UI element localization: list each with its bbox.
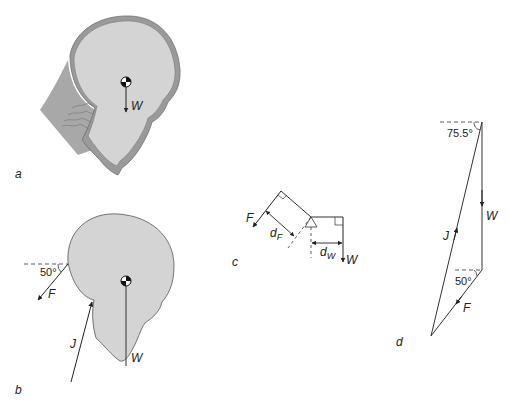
panel-a: W a [15,16,180,181]
df-label-c: dF [270,226,283,242]
panel-d: 75.5° W 50° F J d [396,122,499,349]
angle-label-b: 50° [40,266,57,278]
force-f-arrow-d [456,296,462,304]
panel-c: dF dW W F c [232,191,359,269]
angle-arc-bottom-d [474,270,477,276]
panel-label-b: b [15,383,22,397]
head-silhouette-b [68,214,174,361]
force-j-arrow-d [454,228,457,240]
biomechanics-figure: W a W 50° F J b dF [0,0,509,402]
panel-label-c: c [232,255,238,269]
bottom-angle-label-d: 50° [455,275,472,287]
force-f-label-d: F [463,301,471,315]
force-f-label-b: F [48,287,56,301]
angle-arc-top-d [474,122,480,130]
weight-label-b: W [131,351,144,365]
dw-label-c: dW [320,245,337,261]
force-j-label-d: J [442,229,450,243]
force-j-label-b: J [69,337,77,351]
force-f-line-c [253,191,281,227]
panel-label-d: d [396,335,403,349]
center-of-mass-icon [121,77,131,87]
dashed-perp-c [288,217,311,248]
top-angle-label-d: 75.5° [447,127,473,139]
panel-label-a: a [15,167,22,181]
weight-label-a: W [131,99,144,113]
right-angle-right-c [335,217,343,225]
force-f-label-c: F [246,211,254,225]
force-w-label-d: W [486,209,499,223]
panel-b: W 50° F J b [15,214,174,397]
lever-upper-c [281,191,311,217]
weight-label-c: W [346,253,359,267]
angle-arc-b [58,264,61,272]
center-of-mass-icon [121,276,131,286]
